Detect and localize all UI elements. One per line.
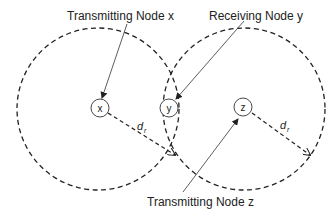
svg-text:d: d [137, 120, 144, 132]
pointer-line-x [102, 24, 127, 98]
svg-text:r: r [287, 126, 290, 133]
svg-text:d: d [280, 119, 287, 131]
diagram-canvas: x y z d r d r Transmitting Node x Receiv… [0, 0, 334, 219]
label-transmitting-node-x: Transmitting Node x [67, 9, 174, 23]
svg-text:r: r [144, 127, 147, 134]
label-transmitting-node-z: Transmitting Node z [147, 195, 254, 209]
range-label-z: d r [280, 119, 290, 133]
label-receiving-node-y: Receiving Node y [209, 9, 303, 23]
node-x: x [91, 99, 109, 117]
range-label-x: d r [137, 120, 147, 134]
node-y-label: y [167, 103, 172, 114]
node-z: z [234, 98, 252, 116]
pointer-line-z [183, 119, 238, 192]
pointer-line-y [176, 21, 244, 99]
node-z-label: z [241, 102, 246, 113]
interference-range-diagram: x y z d r d r Transmitting Node x Receiv… [0, 0, 334, 219]
node-y: y [160, 99, 178, 117]
node-x-label: x [98, 103, 103, 114]
